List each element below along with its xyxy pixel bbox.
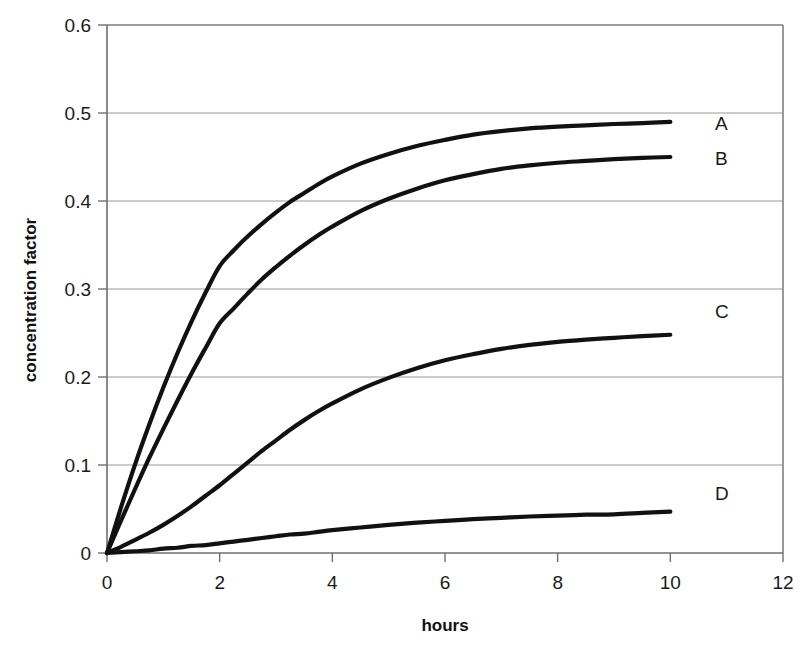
x-tick-label-10: 10 <box>660 572 681 593</box>
x-tick-label-0: 0 <box>102 572 113 593</box>
y-tick-label-0.5: 0.5 <box>65 103 91 124</box>
x-tick-label-2: 2 <box>214 572 225 593</box>
x-tick-label-6: 6 <box>440 572 451 593</box>
series-label-B: B <box>715 148 728 169</box>
chart-container: 024681012 00.10.20.30.40.50.6 ABCD hours… <box>0 0 812 645</box>
y-tick-label-0.6: 0.6 <box>65 15 91 36</box>
y-tick-label-0.2: 0.2 <box>65 367 91 388</box>
y-tick-label-0.4: 0.4 <box>65 191 92 212</box>
x-tick-label-12: 12 <box>772 572 793 593</box>
line-chart: 024681012 00.10.20.30.40.50.6 ABCD hours… <box>0 0 812 645</box>
x-tick-label-4: 4 <box>327 572 338 593</box>
series-label-A: A <box>715 113 728 134</box>
y-tick-label-0: 0 <box>80 543 91 564</box>
y-tick-label-0.1: 0.1 <box>65 455 91 476</box>
y-tick-label-0.3: 0.3 <box>65 279 91 300</box>
series-label-C: C <box>715 301 729 322</box>
x-axis-label: hours <box>421 616 468 635</box>
series-label-D: D <box>715 483 729 504</box>
y-axis-label: concentration factor <box>21 217 40 382</box>
x-tick-label-8: 8 <box>552 572 563 593</box>
